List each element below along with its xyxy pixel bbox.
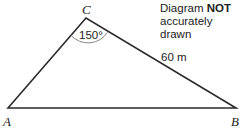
side-label-cb: 60 m: [161, 51, 187, 63]
vertex-label-a: A: [2, 114, 11, 129]
triangle-diagram: C A B 150° 60 m: [0, 0, 246, 132]
vertex-label-b: B: [231, 114, 239, 129]
triangle-abc: [8, 18, 236, 108]
vertex-label-c: C: [82, 2, 91, 17]
angle-label: 150°: [79, 29, 103, 41]
